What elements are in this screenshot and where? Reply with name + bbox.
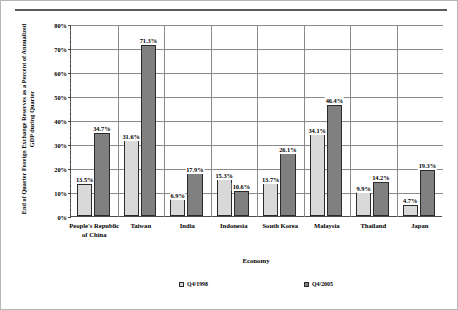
bar-value-label: 31.6%	[122, 133, 141, 141]
bar: 71.3%	[141, 45, 156, 216]
chart-legend: Q4/1998 Q4/2005	[70, 281, 442, 287]
bar-value-label: 17.9%	[186, 166, 205, 174]
bar: 46.4%	[327, 105, 342, 216]
bar-value-label: 15.3%	[215, 172, 234, 180]
y-tick-label-70: 70%	[54, 46, 67, 53]
legend-item-series-0: Q4/1998	[179, 281, 208, 287]
y-tick-label-0: 0%	[57, 214, 67, 221]
bar-group: 6.9%17.9%India	[164, 24, 211, 216]
legend-swatch-q4-2005	[304, 282, 309, 287]
bar: 34.7%	[94, 133, 109, 216]
bar: 31.6%	[124, 140, 139, 216]
bar-value-label: 71.3%	[139, 37, 158, 45]
x-axis-title: Economy	[70, 257, 442, 264]
top-rule-divider	[15, 9, 447, 11]
y-tick-label-80: 80%	[54, 22, 67, 29]
bar: 13.5%	[77, 184, 92, 216]
y-tick-label-10: 10%	[54, 190, 67, 197]
bar: 17.9%	[187, 173, 202, 216]
bar-group: 34.1%46.4%Malaysia	[304, 24, 351, 216]
y-tick-mark-0	[68, 217, 71, 218]
bar-group: 31.6%71.3%Taiwan	[118, 24, 165, 216]
bar-group: 9.9%14.2%Thailand	[350, 24, 397, 216]
legend-label-q4-1998: Q4/1998	[187, 281, 208, 287]
bar-value-label: 34.1%	[308, 127, 327, 135]
bar: 13.7%	[263, 183, 278, 216]
bar-value-label: 46.4%	[325, 97, 344, 105]
bar: 34.1%	[310, 134, 325, 216]
bar: 15.3%	[217, 179, 232, 216]
bar: 4.7%	[403, 205, 418, 216]
bar: 6.9%	[170, 199, 185, 216]
plot-area: 0%10%20%30%40%50%60%70%80%13.5%34.7%Peop…	[70, 25, 442, 217]
bar-group: 15.3%10.6%Indonesia	[211, 24, 258, 216]
chart-figure: End of Quarter Foreign Exchange Reserves…	[0, 0, 458, 310]
y-tick-label-60: 60%	[54, 70, 67, 77]
bar: 14.2%	[373, 182, 388, 216]
bar: 10.6%	[234, 191, 249, 216]
legend-swatch-q4-1998	[179, 282, 184, 287]
y-tick-label-30: 30%	[54, 142, 67, 149]
bar-value-label: 26.1%	[279, 146, 298, 154]
legend-label-q4-2005: Q4/2005	[312, 281, 333, 287]
bar: 9.9%	[356, 192, 371, 216]
bar-value-label: 4.7%	[403, 197, 418, 205]
bar-group: 4.7%19.3%Japan	[397, 24, 444, 216]
bar-value-label: 6.9%	[170, 192, 185, 200]
bar-group: 13.5%34.7%People's Republic of China	[71, 24, 118, 216]
bar-value-label: 34.7%	[93, 125, 112, 133]
x-category-label: Japan	[393, 221, 447, 230]
y-tick-label-20: 20%	[54, 166, 67, 173]
bar: 26.1%	[280, 153, 295, 216]
y-tick-label-50: 50%	[54, 94, 67, 101]
y-tick-label-40: 40%	[54, 118, 67, 125]
bar-value-label: 10.6%	[232, 183, 251, 191]
bar-value-label: 19.3%	[418, 162, 437, 170]
bar-value-label: 9.9%	[356, 185, 371, 193]
bar-value-label: 14.2%	[372, 174, 391, 182]
legend-item-series-1: Q4/2005	[304, 281, 333, 287]
bar-value-label: 13.5%	[75, 176, 94, 184]
bar-group: 13.7%26.1%South Korea	[257, 24, 304, 216]
bar-value-label: 13.7%	[261, 176, 280, 184]
bar: 19.3%	[420, 170, 435, 216]
y-axis-title: End of Quarter Foreign Exchange Reserves…	[15, 23, 41, 215]
